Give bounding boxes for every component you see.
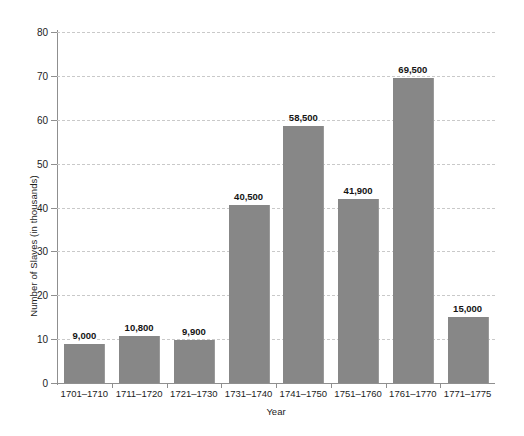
bar-value-label: 40,500 [233,191,264,202]
bar-value-label: 58,500 [288,112,319,123]
y-tick-mark [51,383,57,384]
bar-value-label: 9,000 [71,330,97,341]
x-tick-label: 1721–1730 [170,388,218,399]
bar [283,126,324,383]
x-tick-mark [386,383,387,388]
y-axis-title: Number of Slaves (in thousands) [24,0,42,436]
bar-chart: Number of Slaves (in thousands) 01020304… [0,0,524,436]
y-tick-label: 40 [8,202,48,213]
bar-value-label: 69,500 [397,64,428,75]
x-tick-label: 1771–1775 [444,388,492,399]
bar-value-label: 15,000 [452,303,483,314]
x-axis-title: Year [57,406,495,417]
x-tick-mark [331,383,332,388]
plot-area: 9,00010,8009,90040,50058,50041,90069,500… [57,32,495,383]
bar [448,317,489,383]
gridline [57,76,495,77]
y-tick-label: 70 [8,70,48,81]
bar-value-label: 9,900 [181,326,207,337]
x-tick-label: 1711–1720 [116,388,163,399]
y-tick-label: 20 [8,290,48,301]
bar [64,344,105,383]
y-tick-label: 30 [8,246,48,257]
bar [338,199,379,383]
y-tick-label: 10 [8,334,48,345]
x-tick-label: 1731–1740 [225,388,273,399]
y-tick-label: 50 [8,158,48,169]
gridline [57,32,495,33]
x-tick-mark [440,383,441,388]
bar [174,340,215,383]
bar-value-label: 41,900 [343,185,374,196]
bar-value-label: 10,800 [124,322,155,333]
bar [229,205,270,383]
x-tick-mark [167,383,168,388]
x-tick-label: 1751–1760 [334,388,382,399]
y-tick-label: 60 [8,114,48,125]
x-tick-label: 1761–1770 [389,388,437,399]
bar [393,78,434,383]
y-tick-label: 80 [8,27,48,38]
y-tick-label: 0 [8,378,48,389]
x-tick-label: 1741–1750 [280,388,328,399]
x-tick-mark [276,383,277,388]
bar [119,336,160,383]
x-tick-label: 1701–1710 [61,388,109,399]
x-tick-mark [112,383,113,388]
x-tick-mark [221,383,222,388]
